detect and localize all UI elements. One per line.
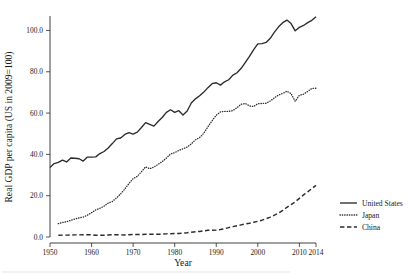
y-axis-tick-labels: 0.020.040.060.080.0100.0 (26, 26, 43, 242)
x-axis-tick-labels: 19501960197019801990200020102014 (43, 248, 324, 257)
y-axis-title: Real GDP per capita (US in 2009=100) (3, 51, 15, 202)
x-tick-label: 2000 (250, 248, 265, 257)
legend-label-china: China (362, 223, 381, 232)
y-tick-label: 40.0 (30, 150, 43, 159)
legend-label-japan: Japan (362, 211, 379, 220)
series-line-united-states (50, 17, 316, 168)
x-axis-group: 19501960197019801990200020102014 (43, 243, 324, 257)
y-axis-group: 0.020.040.060.080.0100.0 (26, 16, 50, 242)
y-tick-label: 100.0 (26, 26, 43, 35)
y-tick-label: 60.0 (30, 109, 43, 118)
x-tick-label: 1980 (167, 248, 182, 257)
y-axis-ticks (46, 30, 50, 237)
legend-label-united-states: United States (362, 199, 403, 208)
x-tick-label: 2014 (309, 248, 324, 257)
figure-container: 0.020.040.060.080.0100.0 195019601970198… (0, 0, 413, 275)
x-tick-label: 2010 (292, 248, 307, 257)
x-tick-label: 1970 (126, 248, 141, 257)
x-axis-ticks (50, 243, 316, 247)
x-tick-label: 1990 (209, 248, 224, 257)
x-axis-title: Year (174, 257, 192, 268)
chart-legend: United StatesJapanChina (340, 199, 403, 232)
x-tick-label: 1960 (84, 248, 99, 257)
x-tick-label: 1950 (43, 248, 58, 257)
y-tick-label: 0.0 (34, 233, 44, 242)
series-line-china (58, 185, 316, 235)
data-series-group (50, 17, 316, 236)
line-chart: 0.020.040.060.080.0100.0 195019601970198… (0, 0, 413, 275)
y-tick-label: 80.0 (30, 67, 43, 76)
y-tick-label: 20.0 (30, 191, 43, 200)
